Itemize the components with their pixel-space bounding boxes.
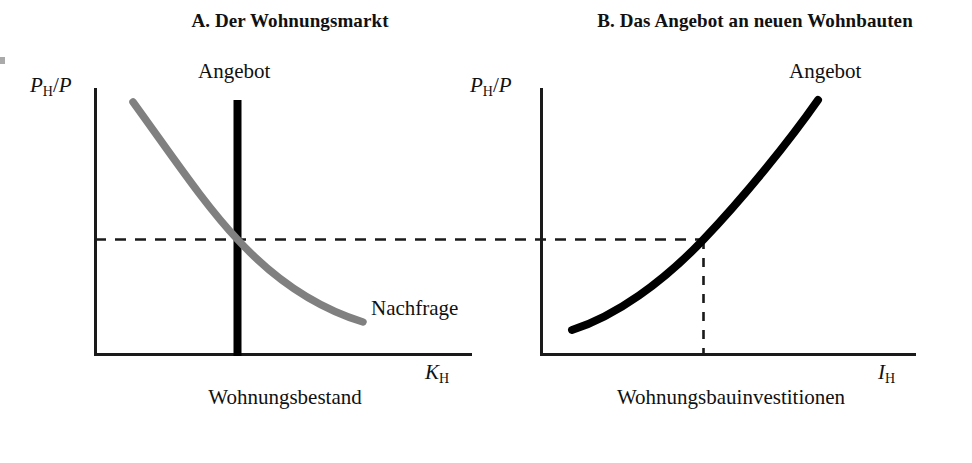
housing-market-figure: A. Der Wohnungsmarkt B. Das Angebot an n…: [0, 0, 972, 463]
panel-a-demand-curve: [133, 102, 363, 322]
panel-b-supply-curve: [572, 100, 818, 330]
plot-canvas: [0, 0, 972, 463]
